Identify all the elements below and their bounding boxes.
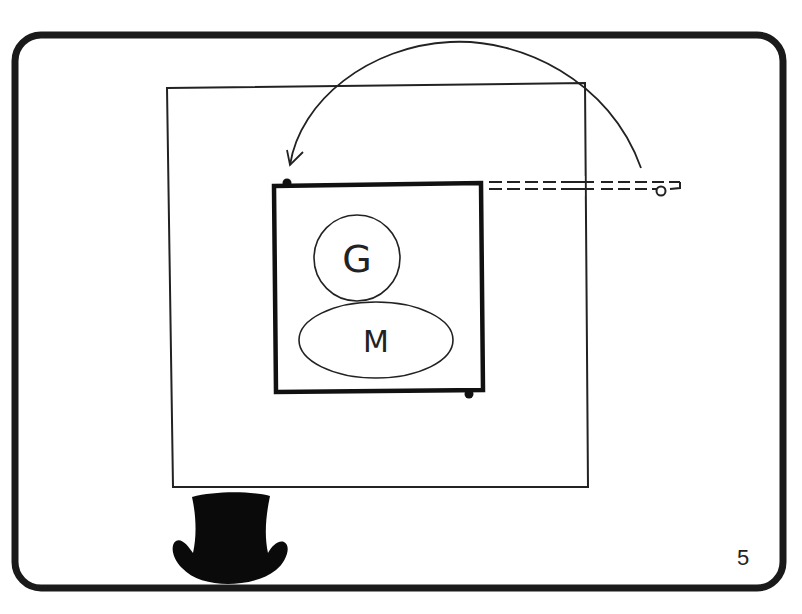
- slide-border: [15, 35, 783, 588]
- box-corner-dot-top: [283, 179, 292, 188]
- box-corner-dot-bottom: [465, 390, 474, 399]
- outer-square: [167, 83, 588, 487]
- g-node-label: G: [342, 237, 371, 281]
- curved-arrow: [290, 42, 641, 168]
- top-hat-icon: [173, 492, 288, 584]
- page-number: 5: [737, 545, 749, 571]
- connector-loop-icon: [657, 187, 666, 196]
- slide-canvas: G M: [0, 0, 802, 614]
- inner-bold-box: [274, 183, 483, 392]
- m-node-label: M: [363, 324, 389, 359]
- arrowhead-icon: [287, 150, 303, 165]
